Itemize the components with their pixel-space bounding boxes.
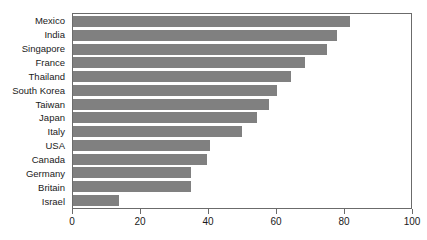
x-axis-tick (140, 209, 141, 214)
plot-area (72, 13, 412, 209)
y-axis-label: Thailand (0, 71, 69, 82)
bar (73, 30, 337, 41)
y-axis-label: Italy (0, 126, 69, 137)
bar-row (73, 167, 411, 178)
bar (73, 112, 257, 123)
bar (73, 181, 191, 192)
bar (73, 85, 277, 96)
x-axis-tick-label: 100 (404, 216, 421, 227)
bar (73, 195, 119, 206)
bar (73, 44, 327, 55)
bar (73, 99, 269, 110)
x-axis-tick-label: 20 (134, 216, 145, 227)
y-axis-label: France (0, 57, 69, 68)
y-axis-label: Japan (0, 112, 69, 123)
bar-row (73, 71, 411, 82)
y-axis-label: Israel (0, 196, 69, 207)
bar-row (73, 195, 411, 206)
x-axis-tick (208, 209, 209, 214)
y-axis-label: Germany (0, 168, 69, 179)
bar-row (73, 112, 411, 123)
x-axis-tick-label: 60 (270, 216, 281, 227)
bar-row (73, 30, 411, 41)
bar-row (73, 44, 411, 55)
y-axis-label: South Korea (0, 85, 69, 96)
bar-row (73, 126, 411, 137)
x-axis-tick (344, 209, 345, 214)
x-axis-tick-label: 0 (69, 216, 75, 227)
bar (73, 154, 207, 165)
bars-layer (73, 14, 411, 208)
x-axis-tick (72, 209, 73, 214)
bar-row (73, 85, 411, 96)
y-axis-label: India (0, 29, 69, 40)
bar (73, 167, 191, 178)
y-axis-label: Singapore (0, 43, 69, 54)
bar (73, 71, 291, 82)
bar (73, 140, 210, 151)
bar (73, 16, 350, 27)
y-axis-label: Mexico (0, 15, 69, 26)
x-axis-tick-label: 80 (338, 216, 349, 227)
x-axis-tick (276, 209, 277, 214)
bar (73, 126, 242, 137)
bar-row (73, 16, 411, 27)
bar-row (73, 99, 411, 110)
bar-row (73, 154, 411, 165)
y-axis-label: Britain (0, 182, 69, 193)
bar-row (73, 181, 411, 192)
y-axis-category-labels: Mexico India Singapore France Thailand S… (0, 13, 69, 209)
bar (73, 57, 305, 68)
bar-row (73, 140, 411, 151)
y-axis-label: Canada (0, 154, 69, 165)
x-axis: 020406080100 (72, 209, 412, 237)
x-axis-tick-label: 40 (202, 216, 213, 227)
x-axis-tick (412, 209, 413, 214)
bar-chart: Mexico India Singapore France Thailand S… (0, 0, 427, 240)
y-axis-label: Taiwan (0, 99, 69, 110)
bar-row (73, 57, 411, 68)
y-axis-label: USA (0, 140, 69, 151)
